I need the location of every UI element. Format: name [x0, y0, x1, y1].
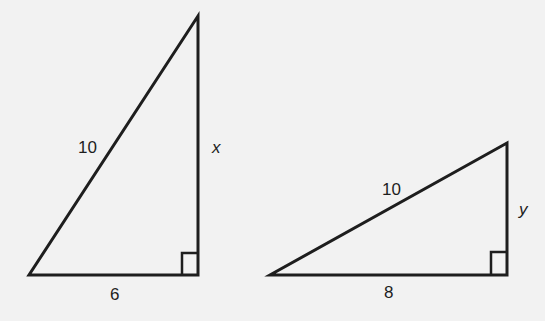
- right-hypotenuse-label: 10: [382, 181, 401, 198]
- left-vertical-label: x: [212, 139, 221, 156]
- right-base-label: 8: [384, 284, 393, 301]
- left-triangle-outline: [29, 16, 198, 275]
- right-right-angle-marker: [491, 252, 507, 275]
- diagram-canvas: 10 x 6 10 y 8: [0, 0, 545, 321]
- left-base-label: 6: [110, 286, 119, 303]
- triangles-drawing: [0, 0, 545, 321]
- right-vertical-label: y: [519, 201, 528, 218]
- right-triangle: [270, 143, 507, 275]
- left-triangle: [29, 16, 198, 275]
- left-hypotenuse-label: 10: [78, 139, 97, 156]
- right-triangle-outline: [270, 143, 507, 275]
- left-right-angle-marker: [182, 253, 198, 275]
